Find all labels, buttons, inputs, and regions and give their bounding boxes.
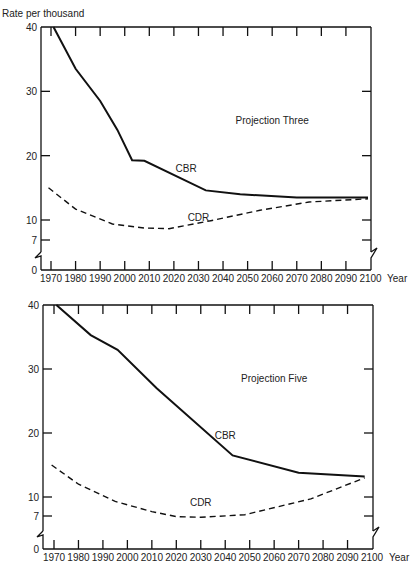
x-tick-label: 2010 [141,552,164,563]
y-tick-label: 10 [26,215,38,226]
x-tick-label: 2080 [310,273,333,284]
figure: Rate per thousand 0710203040197019801990… [0,0,420,569]
x-axis-label: Year [389,552,410,563]
x-tick-label: 2000 [114,273,137,284]
annotation-cbr: CBR [176,163,197,174]
x-tick-label: 1970 [40,273,63,284]
x-tick-label: 2100 [359,273,382,284]
y-tick-label: 10 [28,492,40,503]
x-axis-label: Year [387,273,408,284]
x-tick-label: 2090 [336,552,359,563]
x-tick-label: 1990 [92,552,115,563]
y-tick-label: 40 [26,22,38,33]
chart-projection-three: 0710203040197019801990200020102020203020… [26,22,408,284]
annotation-projection-five: Projection Five [241,373,308,384]
x-tick-label: 2040 [212,273,235,284]
y-tick-label: 0 [31,265,37,276]
x-tick-label: 2030 [187,273,210,284]
x-tick-label: 2010 [138,273,161,284]
series-cbr-line [56,305,364,477]
x-tick-label: 1980 [64,273,87,284]
x-tick-label: 1970 [43,552,66,563]
y-tick-label: 20 [28,428,40,439]
y-tick-label: 30 [28,364,40,375]
y-tick-label: 7 [31,235,37,246]
annotation-cdr: CDR [190,497,212,508]
axis-break-right [373,527,379,549]
x-tick-label: 2090 [335,273,358,284]
y-axis-label: Rate per thousand [2,8,84,19]
annotation-projection-three: Projection Three [236,115,310,126]
x-tick-label: 2000 [116,552,139,563]
annotation-cbr: CBR [215,430,236,441]
x-tick-label: 2060 [263,552,286,563]
x-tick-label: 2060 [261,273,284,284]
x-tick-label: 1980 [67,552,90,563]
x-tick-label: 2030 [190,552,213,563]
chart-projection-five: 0710203040197019801990200020102020203020… [28,300,410,563]
annotation-cdr: CDR [188,212,210,223]
x-tick-label: 2050 [239,552,262,563]
x-tick-label: 2070 [286,273,309,284]
x-tick-label: 1990 [89,273,112,284]
x-tick-label: 2020 [165,552,188,563]
y-tick-label: 20 [26,151,38,162]
y-tick-label: 7 [33,511,39,522]
x-tick-label: 2050 [236,273,259,284]
axis-break-right [371,248,377,270]
x-tick-label: 2040 [214,552,237,563]
y-tick-label: 30 [26,86,38,97]
y-tick-label: 40 [28,300,40,311]
series-cbr-line [54,27,369,198]
x-tick-label: 2020 [163,273,186,284]
x-tick-label: 2070 [287,552,310,563]
x-tick-label: 2080 [312,552,335,563]
x-tick-label: 2100 [361,552,384,563]
y-tick-label: 0 [33,544,39,555]
